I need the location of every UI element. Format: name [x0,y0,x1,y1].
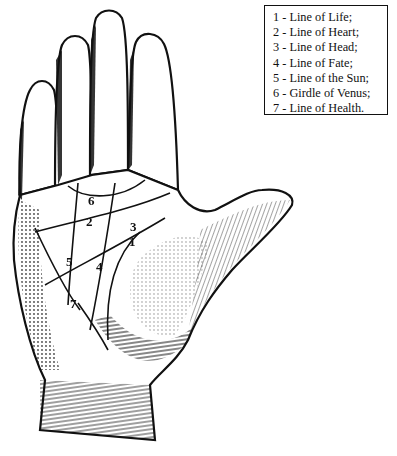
legend-item-life: 1 - Line of Life; [273,10,387,25]
label-1: 1 [129,235,136,248]
legend-item-venus: 6 - Girdle of Venus; [273,86,387,101]
legend-item-health: 7 - Line of Health. [273,101,387,116]
label-3: 3 [130,220,137,233]
label-7: 7 [70,297,77,310]
index-finger [128,34,178,190]
label-2: 2 [86,215,93,228]
label-5: 5 [66,255,73,268]
legend-item-fate: 4 - Line of Fate; [273,56,387,71]
legend-item-heart: 2 - Line of Heart; [273,25,387,40]
little-finger [19,81,58,195]
label-4: 4 [96,260,103,273]
label-6: 6 [88,194,95,207]
legend-box: 1 - Line of Life; 2 - Line of Heart; 3 -… [264,5,388,115]
legend-item-sun: 5 - Line of the Sun; [273,71,387,86]
legend-item-head: 3 - Line of Head; [273,40,387,55]
